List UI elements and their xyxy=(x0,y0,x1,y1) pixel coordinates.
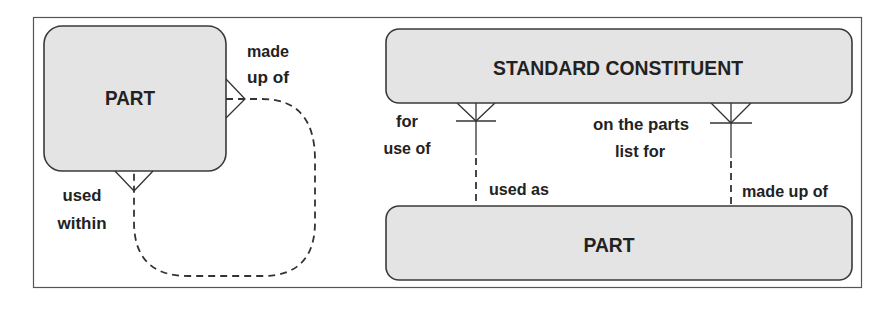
label-for-use-of: for xyxy=(396,113,418,130)
label-made-up-of-2: up of xyxy=(247,69,290,86)
label-made-up-of-right: made up of xyxy=(742,183,829,200)
right-panel: STANDARD CONSTITUENT PART for use of on … xyxy=(384,29,853,280)
entity-part-right-label: PART xyxy=(584,233,635,256)
left-panel: PART made up of used within xyxy=(44,26,315,276)
entity-part-left-label: PART xyxy=(105,86,155,109)
label-on-the-parts-list-for: on the parts xyxy=(593,116,689,133)
label-on-the-parts-list-for-2: list for xyxy=(615,143,665,160)
label-used-within-2: within xyxy=(56,215,106,232)
er-diagram: PART made up of used within STANDARD CON… xyxy=(0,0,889,310)
label-used-as: used as xyxy=(489,181,549,198)
label-used-within: used xyxy=(63,187,102,204)
label-for-use-of-2: use of xyxy=(384,140,432,157)
label-made-up-of: made xyxy=(247,43,289,60)
entity-standard-constituent-label: STANDARD CONSTITUENT xyxy=(493,56,743,79)
